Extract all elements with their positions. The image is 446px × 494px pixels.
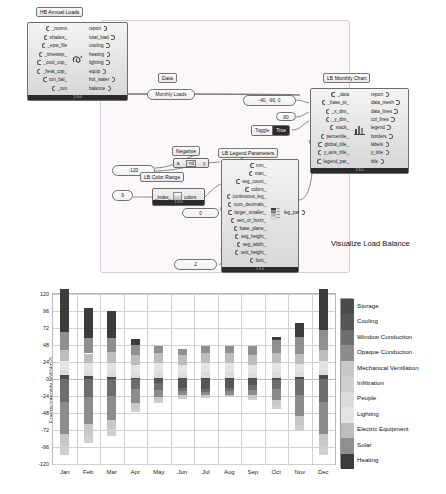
port-x-dim[interactable]: _x_dim_ xyxy=(330,109,351,115)
port-nub[interactable] xyxy=(111,35,115,40)
port-colors[interactable]: colors xyxy=(182,195,198,200)
port-nub[interactable] xyxy=(37,60,41,65)
node-lb-color-range[interactable]: _index_ colors 1.9.0 xyxy=(152,188,205,206)
port-nub[interactable] xyxy=(250,258,254,263)
port-y-title[interactable]: y_title xyxy=(369,150,385,156)
port-y-dim[interactable]: _y_dim_ xyxy=(330,117,351,123)
port-nub[interactable] xyxy=(227,194,231,199)
port-rooms[interactable]: _rooms xyxy=(50,26,69,32)
port-nub[interactable] xyxy=(42,43,46,48)
port-report[interactable]: report xyxy=(369,92,385,98)
port-data-lines[interactable]: data_lines xyxy=(369,109,394,115)
port-heating[interactable]: heating xyxy=(87,52,106,58)
port-nub[interactable] xyxy=(326,117,330,122)
expression-negative[interactable]: a <d y xyxy=(173,158,209,168)
port-col-lines[interactable]: col_lines xyxy=(369,117,391,123)
port-seg-count[interactable]: seg_count_ xyxy=(240,179,268,185)
port-nub[interactable] xyxy=(387,125,391,130)
port-nub[interactable] xyxy=(250,163,254,168)
expr-operator[interactable]: <d xyxy=(186,160,196,167)
port-nub[interactable] xyxy=(386,92,390,97)
port-nub[interactable] xyxy=(108,86,112,91)
port-nub[interactable] xyxy=(106,60,110,65)
port-nub[interactable] xyxy=(322,100,326,105)
port-epw-file[interactable]: _epw_file xyxy=(46,43,69,49)
port-data-mesh[interactable]: data_mesh xyxy=(369,100,396,106)
port-nub[interactable] xyxy=(330,125,334,130)
port-nub[interactable] xyxy=(46,26,50,31)
port-global-title[interactable]: global_title_ xyxy=(322,142,351,148)
grasshopper-canvas[interactable]: HB Annual Loads _rooms shades_ _epw_file… xyxy=(0,0,446,285)
port-seg-width[interactable]: seg_width_ xyxy=(241,242,268,248)
port-data[interactable]: _data xyxy=(335,92,351,98)
port-nub[interactable] xyxy=(103,69,107,74)
port-nub[interactable] xyxy=(394,109,398,114)
port-font[interactable]: font_ xyxy=(254,258,268,264)
port-nub[interactable] xyxy=(231,218,235,223)
port-run-bal[interactable]: run_bal_ xyxy=(47,77,69,83)
port-nub[interactable] xyxy=(235,234,239,239)
port-nub[interactable] xyxy=(235,250,239,255)
port-index[interactable]: _index_ xyxy=(153,195,173,200)
port-nub[interactable] xyxy=(106,43,110,48)
port-nub[interactable] xyxy=(237,242,241,247)
param-monthly-loads[interactable]: Monthly Loads xyxy=(147,89,195,100)
port-vert-or-horiz[interactable]: vert_or_horiz_ xyxy=(235,218,268,224)
port-cool-cop[interactable]: _cool_cop_ xyxy=(41,60,69,66)
port-title[interactable]: title xyxy=(369,159,380,165)
port-shades[interactable]: shades_ xyxy=(48,35,69,41)
port-nub[interactable] xyxy=(317,159,321,164)
port-text-height[interactable]: text_height_ xyxy=(239,250,268,256)
port-nub[interactable] xyxy=(318,150,322,155)
port-nub[interactable] xyxy=(112,77,116,82)
port-nub[interactable] xyxy=(107,52,111,57)
port-nub[interactable] xyxy=(249,171,253,176)
port-balance[interactable]: balance xyxy=(87,86,107,92)
port-nub[interactable] xyxy=(39,52,43,57)
port-cooling[interactable]: cooling xyxy=(87,43,106,49)
port-stack[interactable]: stack_ xyxy=(334,125,351,131)
port-larger-smaller[interactable]: larger_smaller_ xyxy=(232,210,268,216)
port-nub[interactable] xyxy=(321,134,325,139)
port-timestep[interactable]: _timestep_ xyxy=(43,52,69,58)
port-labels[interactable]: labels xyxy=(369,142,385,148)
port-nub[interactable] xyxy=(245,187,249,192)
port-run[interactable]: _run xyxy=(56,86,69,92)
port-hot-water[interactable]: hot_water xyxy=(87,77,111,83)
port-seg-height[interactable]: seg_height_ xyxy=(239,234,268,240)
port-nub[interactable] xyxy=(389,134,393,139)
port-nub[interactable] xyxy=(381,159,385,164)
port-min[interactable]: min_ xyxy=(254,163,268,169)
port-nub[interactable] xyxy=(396,100,400,105)
node-hb-annual-loads[interactable]: _rooms shades_ _epw_file _timestep_ _coo… xyxy=(27,22,128,101)
port-colors[interactable]: colors_ xyxy=(249,187,268,193)
port-nub[interactable] xyxy=(386,142,390,147)
port-max[interactable]: max_ xyxy=(253,171,268,177)
port-nub[interactable] xyxy=(386,150,390,155)
port-nub[interactable] xyxy=(234,226,238,231)
node-lb-monthly-chart[interactable]: _data _base_pt_ _x_dim_ _y_dim_ stack_ p… xyxy=(310,88,409,174)
port-nub[interactable] xyxy=(331,92,335,97)
port-nub[interactable] xyxy=(43,77,47,82)
port-nub[interactable] xyxy=(44,35,48,40)
panel-y-dimension[interactable]: 80 xyxy=(276,112,296,121)
port-borders[interactable]: borders xyxy=(369,134,389,140)
port-nub[interactable] xyxy=(37,69,41,74)
port-base-pt[interactable]: _base_pt_ xyxy=(326,100,351,106)
toggle-value[interactable]: True xyxy=(272,126,289,135)
port-equip[interactable]: equip xyxy=(87,69,102,75)
port-nub[interactable] xyxy=(228,202,232,207)
port-report[interactable]: report xyxy=(87,26,103,32)
port-heat-cop[interactable]: _heat_cop_ xyxy=(41,69,69,75)
port-legend[interactable]: legend xyxy=(369,125,387,131)
port-y-axis-title[interactable]: y_axis_title_ xyxy=(322,150,351,156)
port-nub[interactable] xyxy=(326,109,330,114)
port-continuous-leg[interactable]: continuous_leg_ xyxy=(231,194,268,200)
port-nub[interactable] xyxy=(236,179,240,184)
port-nub[interactable] xyxy=(318,142,322,147)
panel-color-index[interactable]: 9 xyxy=(112,190,133,201)
toggle-stack[interactable]: Toggle True xyxy=(251,125,290,136)
port-nub[interactable] xyxy=(52,86,56,91)
port-legend-par[interactable]: legend_par_ xyxy=(321,159,351,165)
panel-base-point[interactable]: -40, -90, 0 xyxy=(243,95,296,106)
